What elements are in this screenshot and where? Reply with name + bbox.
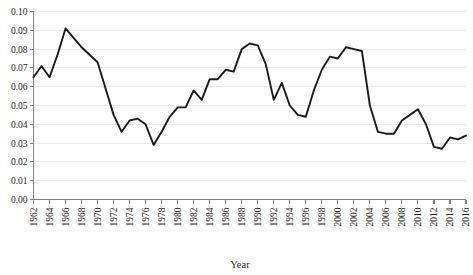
x-tick-label: 1970: [93, 207, 103, 226]
x-tick-label: 1996: [301, 207, 311, 226]
x-tick-label: 2014: [445, 207, 455, 226]
x-tick-label: 1976: [141, 207, 151, 226]
x-tick-label: 1992: [269, 207, 279, 226]
y-tick-label: 0.02: [11, 157, 28, 167]
x-tick-label: 1968: [77, 207, 87, 226]
gridlines-group: [34, 12, 467, 181]
y-tick-label: 0.00: [11, 195, 28, 205]
x-tick-label: 2012: [429, 207, 439, 226]
x-axis-title: Year: [230, 259, 250, 270]
y-tick-label: 0.10: [11, 7, 28, 17]
x-tick-label: 1964: [45, 207, 55, 226]
y-tick-label: 0.06: [11, 82, 28, 92]
x-tick-label: 2006: [381, 207, 391, 226]
y-tick-label: 0.09: [11, 26, 28, 36]
x-tick-label: 1974: [125, 207, 135, 226]
x-tick-label: 1972: [109, 207, 119, 226]
x-tick-label: 2002: [349, 207, 359, 226]
x-tick-label: 2016: [461, 207, 471, 226]
x-tick-label: 1986: [221, 207, 231, 226]
x-axis: 1962196419661968197019721974197619781980…: [29, 200, 472, 227]
y-tick-label: 0.04: [11, 120, 28, 130]
x-tick-label: 1994: [285, 207, 295, 226]
x-tick-label: 1980: [173, 207, 183, 226]
chart-canvas: 0.000.010.020.030.040.050.060.070.080.09…: [0, 0, 473, 275]
x-tick-label: 2010: [413, 207, 423, 226]
x-tick-label: 1984: [205, 207, 215, 226]
x-tick-label: 2000: [333, 207, 343, 226]
x-tick-label: 1978: [157, 207, 167, 226]
x-tick-label: 1966: [61, 207, 71, 226]
x-tick-label: 1982: [189, 207, 199, 226]
x-tick-label: 1990: [253, 207, 263, 226]
x-tick-label: 1988: [237, 207, 247, 226]
y-tick-label: 0.08: [11, 45, 28, 55]
y-tick-label: 0.07: [11, 63, 28, 73]
x-tick-label: 1998: [317, 207, 327, 226]
y-axis: 0.000.010.020.030.040.050.060.070.080.09…: [11, 7, 34, 205]
y-tick-label: 0.05: [11, 101, 28, 111]
y-tick-label: 0.03: [11, 139, 28, 149]
x-tick-label: 2008: [397, 207, 407, 226]
x-tick-label: 1962: [29, 207, 39, 226]
data-series-line: [34, 28, 467, 148]
x-tick-label: 2004: [365, 207, 375, 226]
line-chart: 0.000.010.020.030.040.050.060.070.080.09…: [0, 0, 473, 275]
y-tick-label: 0.01: [11, 176, 28, 186]
